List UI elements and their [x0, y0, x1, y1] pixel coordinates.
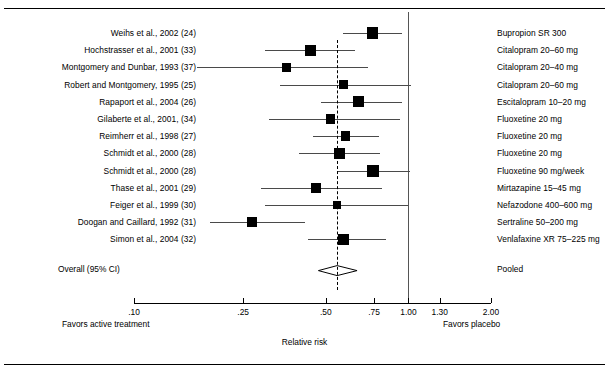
- plot-area: Weihs et al., 2002 (24)Bupropion SR 300H…: [0, 0, 609, 374]
- overall-label: Overall (95% CI): [58, 264, 120, 274]
- overall-drug-label: Pooled: [497, 264, 523, 274]
- study-label: Schmidt et al., 2000 (28): [0, 145, 196, 162]
- x-axis-title: Relative risk: [0, 337, 609, 347]
- study-label: Reimherr et al., 1998 (27): [0, 128, 196, 145]
- drug-label: Bupropion SR 300: [497, 25, 609, 42]
- study-label: Thase et al., 2001 (29): [0, 180, 196, 197]
- table-row: Schmidt et al., 2000 (28)Fluoxetine 90 m…: [0, 163, 609, 180]
- drug-label: Nefazodone 400–600 mg: [497, 197, 609, 214]
- table-row: Robert and Montgomery, 1995 (25)Citalopr…: [0, 77, 609, 94]
- table-row: Simon et al., 2004 (32)Venlafaxine XR 75…: [0, 231, 609, 248]
- drug-label: Fluoxetine 20 mg: [497, 145, 609, 162]
- table-row: Montgomery and Dunbar, 1993 (37)Citalopr…: [0, 59, 609, 76]
- study-label: Gilaberte et al., 2001, (34): [0, 111, 196, 128]
- favors-active-treatment-note: Favors active treatment: [62, 319, 150, 329]
- favors-placebo-note: Favors placebo: [443, 319, 500, 329]
- forest-plot-figure: Weihs et al., 2002 (24)Bupropion SR 300H…: [0, 0, 609, 374]
- study-label: Montgomery and Dunbar, 1993 (37): [0, 59, 196, 76]
- effect-size-marker: [338, 234, 349, 245]
- axis-tick-label: .50: [306, 307, 346, 317]
- drug-label: Mirtazapine 15–45 mg: [497, 180, 609, 197]
- study-label: Hochstrasser et al., 2001 (33): [0, 42, 196, 59]
- axis-tick-label: .10: [114, 307, 154, 317]
- drug-label: Venlafaxine XR 75–225 mg: [497, 231, 609, 248]
- study-label: Schmidt et al., 2000 (28): [0, 163, 196, 180]
- axis-tick-label: 1.30: [420, 307, 460, 317]
- study-label: Doogan and Caillard, 1992 (31): [0, 214, 196, 231]
- axis-tick: [243, 298, 244, 303]
- effect-size-marker: [305, 45, 316, 56]
- table-row: Schmidt et al., 2000 (28)Fluoxetine 20 m…: [0, 145, 609, 162]
- drug-label: Fluoxetine 20 mg: [497, 128, 609, 145]
- x-axis-line: [134, 303, 491, 304]
- study-label: Robert and Montgomery, 1995 (25): [0, 77, 196, 94]
- effect-size-marker: [367, 27, 379, 39]
- drug-label: Sertraline 50–200 mg: [497, 214, 609, 231]
- drug-label: Fluoxetine 20 mg: [497, 111, 609, 128]
- table-row: Rapaport et al., 2004 (26)Escitalopram 1…: [0, 94, 609, 111]
- axis-tick-label: .25: [223, 307, 263, 317]
- axis-tick: [408, 298, 409, 303]
- effect-size-marker: [282, 63, 291, 72]
- study-label: Feiger et al., 1999 (30): [0, 197, 196, 214]
- pooled-estimate-line: [337, 40, 338, 290]
- drug-label: Escitalopram 10–20 mg: [497, 94, 609, 111]
- effect-size-marker: [334, 148, 345, 159]
- effect-size-marker: [341, 131, 351, 141]
- drug-label: Fluoxetine 90 mg/week: [497, 163, 609, 180]
- study-label: Rapaport et al., 2004 (26): [0, 94, 196, 111]
- effect-size-marker: [353, 96, 364, 107]
- study-label: Weihs et al., 2002 (24): [0, 25, 196, 42]
- axis-tick: [374, 298, 375, 303]
- axis-tick-label: 2.00: [471, 307, 511, 317]
- drug-label: Citalopram 20–60 mg: [497, 42, 609, 59]
- axis-tick: [491, 298, 492, 303]
- table-row: Feiger et al., 1999 (30)Nefazodone 400–6…: [0, 197, 609, 214]
- table-row: Thase et al., 2001 (29)Mirtazapine 15–45…: [0, 180, 609, 197]
- effect-size-marker: [339, 80, 349, 90]
- table-row: Doogan and Caillard, 1992 (31)Sertraline…: [0, 214, 609, 231]
- study-label: Simon et al., 2004 (32): [0, 231, 196, 248]
- effect-size-marker: [311, 183, 321, 193]
- table-row: Gilaberte et al., 2001, (34)Fluoxetine 2…: [0, 111, 609, 128]
- effect-size-marker: [247, 217, 257, 227]
- drug-label: Citalopram 20–60 mg: [497, 77, 609, 94]
- confidence-interval-line: [261, 188, 382, 189]
- axis-tick: [440, 298, 441, 303]
- axis-tick: [326, 298, 327, 303]
- confidence-interval-line: [210, 222, 305, 223]
- table-row: Reimherr et al., 1998 (27)Fluoxetine 20 …: [0, 128, 609, 145]
- axis-tick: [134, 298, 135, 303]
- table-row: Weihs et al., 2002 (24)Bupropion SR 300: [0, 25, 609, 42]
- effect-size-marker: [367, 165, 379, 177]
- drug-label: Citalopram 20–40 mg: [497, 59, 609, 76]
- effect-size-marker: [326, 114, 335, 123]
- table-row: Hochstrasser et al., 2001 (33)Citalopram…: [0, 42, 609, 59]
